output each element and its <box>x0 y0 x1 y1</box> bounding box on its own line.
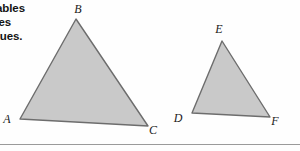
triangle-def-shape <box>192 41 270 117</box>
caption-line-3: ogues. <box>0 29 62 43</box>
figure-page: B C A E F D blables e les ogues. <box>0 0 300 151</box>
vertex-label-d: D <box>173 111 183 125</box>
vertex-label-f: F <box>270 114 279 128</box>
caption-text: blables e les ogues. <box>0 1 62 43</box>
vertex-label-e: E <box>214 22 223 36</box>
vertex-label-c: C <box>149 123 158 137</box>
vertex-label-b: B <box>74 2 82 16</box>
vertex-label-a: A <box>2 112 11 126</box>
caption-line-2: e les <box>0 15 62 29</box>
caption-line-1: blables <box>0 1 62 15</box>
